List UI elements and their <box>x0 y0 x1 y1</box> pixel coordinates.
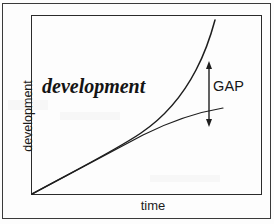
gap-arrow <box>206 61 212 127</box>
plot-curves <box>31 15 262 195</box>
exponential-growth-curve <box>32 20 215 194</box>
plot-caption-development: development <box>42 75 145 98</box>
figure-container: development time development GAP <box>0 0 274 224</box>
gap-annotation-label: GAP <box>213 78 244 94</box>
y-axis-label: development <box>20 61 36 171</box>
linear-growth-curve <box>32 108 223 194</box>
x-axis-label: time <box>108 198 198 213</box>
